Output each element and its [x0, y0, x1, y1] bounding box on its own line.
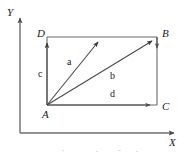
y-axis-label: Y — [7, 6, 15, 18]
vector-diagram-figure: Y X A B C D c a b d — [0, 0, 194, 158]
vector-label-c: c — [38, 68, 43, 79]
vector-label-a: a — [67, 56, 72, 67]
vector-label-b: b — [110, 70, 115, 81]
vertex-label-A: A — [41, 108, 49, 120]
vector-labels: c a b d — [38, 56, 115, 99]
vector-arrows — [47, 37, 157, 105]
x-axis-label: X — [168, 136, 177, 148]
vector-label-d: d — [110, 88, 115, 99]
vector-b-arrow — [47, 41, 152, 105]
vertex-labels: A B C D — [36, 27, 170, 120]
diagram-canvas: Y X A B C D c a b d — [0, 0, 194, 158]
vertex-label-B: B — [162, 27, 169, 39]
vertex-label-C: C — [162, 100, 170, 112]
vector-a-arrow — [47, 42, 98, 105]
vertex-label-D: D — [36, 27, 45, 39]
